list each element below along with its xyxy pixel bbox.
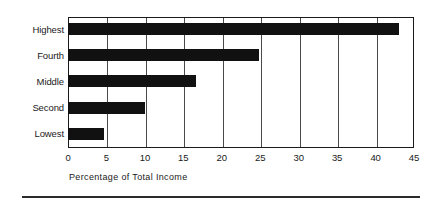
x-tick-label-35: 35 bbox=[332, 152, 342, 164]
bar-band-second bbox=[68, 96, 414, 122]
bar-middle bbox=[68, 75, 196, 87]
bars-layer bbox=[68, 17, 414, 148]
category-label-middle: Middle bbox=[0, 76, 64, 87]
bar-band-middle bbox=[68, 69, 414, 95]
category-label-fourth: Fourth bbox=[0, 50, 64, 61]
category-axis-labels: Highest Fourth Middle Second Lowest bbox=[0, 17, 64, 148]
x-axis-tick-labels: 0 5 10 15 20 25 30 35 40 45 bbox=[68, 152, 414, 166]
footer-divider bbox=[22, 196, 420, 198]
x-tick-label-25: 25 bbox=[255, 152, 265, 164]
category-label-lowest: Lowest bbox=[0, 128, 64, 139]
bar-band-lowest bbox=[68, 122, 414, 148]
x-tick-label-40: 40 bbox=[370, 152, 380, 164]
bar-highest bbox=[68, 23, 399, 35]
bar-fourth bbox=[68, 49, 259, 61]
category-label-highest: Highest bbox=[0, 24, 64, 35]
x-tick-label-5: 5 bbox=[104, 152, 109, 164]
category-label-second: Second bbox=[0, 102, 64, 113]
x-tick-label-20: 20 bbox=[217, 152, 227, 164]
x-tick-label-45: 45 bbox=[409, 152, 419, 164]
x-tick-label-10: 10 bbox=[140, 152, 150, 164]
x-tick-label-15: 15 bbox=[178, 152, 188, 164]
x-axis-title: Percentage of Total Income bbox=[69, 171, 188, 183]
bar-lowest bbox=[68, 128, 104, 140]
bar-band-fourth bbox=[68, 43, 414, 69]
bar-second bbox=[68, 102, 145, 114]
bar-chart-figure: Highest Fourth Middle Second Lowest 0 5 … bbox=[0, 0, 438, 204]
x-tick-label-0: 0 bbox=[65, 152, 70, 164]
bar-band-highest bbox=[68, 17, 414, 43]
x-tick-label-30: 30 bbox=[294, 152, 304, 164]
